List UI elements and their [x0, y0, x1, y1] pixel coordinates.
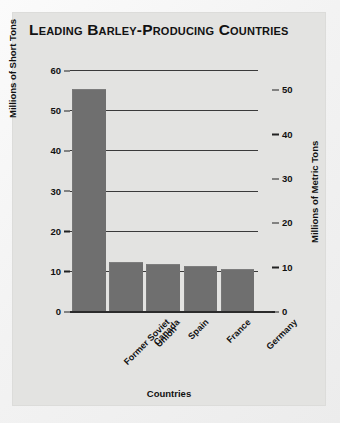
- bar: [221, 269, 255, 311]
- x-axis-category-label: France: [225, 317, 253, 345]
- bar: [109, 262, 143, 311]
- tick-mark: [64, 311, 70, 312]
- tick-mark: [272, 134, 279, 135]
- y-axis-left-tick: 50: [27, 105, 61, 116]
- y-axis-right-tick: 0: [272, 306, 312, 317]
- tick-mark: [64, 150, 70, 151]
- bar-series: [72, 70, 258, 311]
- y-axis-left-tick: 0: [27, 306, 61, 317]
- y-axis-right-tick: 50: [272, 84, 312, 95]
- y-axis-right-tick: 10: [272, 261, 312, 272]
- figure-canvas: Leading Barley-Producing Countries 60504…: [0, 0, 340, 423]
- y-axis-left-tick: 30: [27, 185, 61, 196]
- tick-mark: [64, 191, 70, 192]
- tick-mark: [64, 231, 70, 232]
- x-axis-category-label: Germany: [265, 317, 300, 352]
- chart-title: Leading Barley-Producing Countries: [29, 21, 299, 38]
- tick-mark: [272, 222, 279, 223]
- y-axis-left-tick: 20: [27, 225, 61, 236]
- y-axis-left-title: Millions of Short Tons: [7, 19, 18, 118]
- chart-panel: Leading Barley-Producing Countries 60504…: [13, 13, 325, 405]
- x-axis-title: Countries: [13, 388, 325, 399]
- y-axis-left-tick: 40: [27, 145, 61, 156]
- tick-mark: [64, 110, 70, 111]
- y-axis-right-title: Millions of Metric Tons: [309, 141, 320, 243]
- y-axis-right-tick: 20: [272, 217, 312, 228]
- x-axis-category-label: Spain: [186, 317, 210, 341]
- y-axis-right-tick: 30: [272, 173, 312, 184]
- tick-mark: [272, 311, 279, 312]
- y-axis-right-tick: 40: [272, 128, 312, 139]
- tick-mark: [64, 70, 70, 71]
- tick-mark: [272, 267, 279, 268]
- x-axis-line: [70, 311, 275, 313]
- y-axis-left-tick: 10: [27, 265, 61, 276]
- tick-mark: [272, 89, 279, 90]
- y-axis-left-tick: 60: [27, 65, 61, 76]
- bar: [72, 89, 106, 311]
- bar: [146, 264, 180, 311]
- bar: [184, 266, 218, 311]
- plot-area: [70, 70, 258, 311]
- tick-mark: [64, 271, 70, 272]
- tick-mark: [272, 178, 279, 179]
